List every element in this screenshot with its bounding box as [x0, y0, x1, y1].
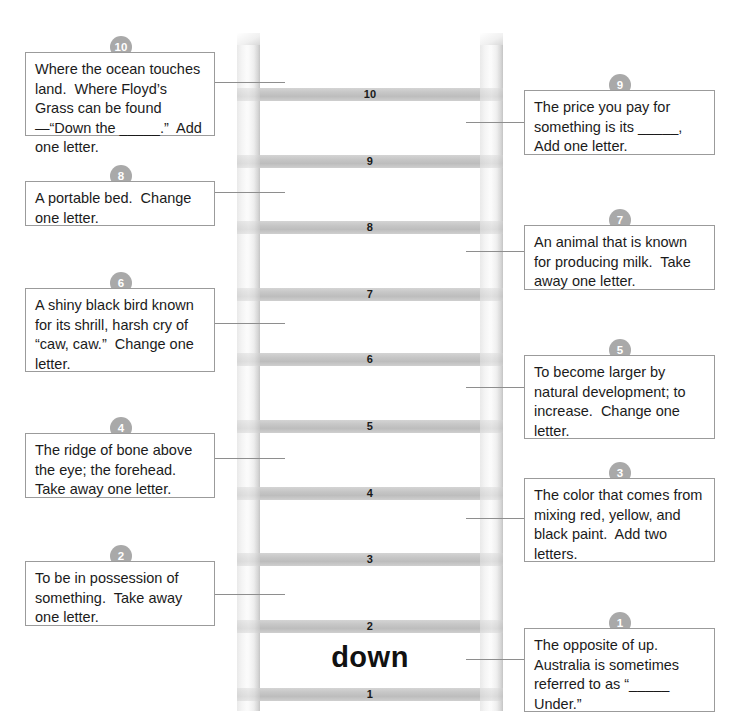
clue-text-8: A portable bed. Change one letter.	[35, 190, 195, 226]
ladder-rung-6	[237, 353, 503, 366]
clue-connector-8	[215, 192, 285, 193]
ladder-rung-7	[237, 288, 503, 301]
ladder-rung-4	[237, 487, 503, 500]
clue-text-1: The opposite of up. Australia is sometim…	[534, 637, 683, 712]
ladder-right-rail	[480, 33, 503, 711]
ladder-right-rail-top	[480, 33, 503, 45]
clue-box-4[interactable]: The ridge of bone above the eye; the for…	[25, 433, 215, 498]
ladder-rung-1	[237, 688, 503, 701]
worksheet-page: 10 9 8 7 6 5 4 3 2 1 down 10 Where the o…	[0, 0, 736, 724]
clue-text-3: The color that comes from mixing red, ye…	[534, 487, 706, 562]
clue-box-3[interactable]: The color that comes from mixing red, ye…	[524, 478, 715, 562]
clue-text-4: The ridge of bone above the eye; the for…	[35, 442, 196, 497]
clue-box-5[interactable]: To become larger by natural development;…	[524, 355, 715, 439]
clue-box-8[interactable]: A portable bed. Change one letter.	[25, 181, 215, 226]
ladder-rung-2	[237, 620, 503, 633]
clue-connector-6	[215, 323, 285, 324]
rung-number-8: 8	[237, 221, 503, 234]
clue-box-7[interactable]: An animal that is known for producing mi…	[524, 225, 715, 290]
rung-number-6: 6	[237, 353, 503, 366]
rung-number-7: 7	[237, 288, 503, 301]
rung-number-10: 10	[237, 88, 503, 101]
clue-text-6: A shiny black bird known for its shrill,…	[35, 297, 198, 372]
rung-number-1: 1	[237, 688, 503, 701]
clue-connector-4	[215, 458, 285, 459]
rung-number-4: 4	[237, 487, 503, 500]
answer-word-down: down	[250, 641, 490, 674]
ladder-left-rail-top	[237, 33, 260, 45]
ladder-rung-8	[237, 221, 503, 234]
clue-box-1[interactable]: The opposite of up. Australia is sometim…	[524, 628, 715, 712]
clue-connector-7	[466, 251, 524, 252]
clue-box-9[interactable]: The price you pay for something is its _…	[524, 90, 715, 155]
ladder-left-rail	[237, 33, 260, 711]
ladder-right-rail-overlay	[480, 33, 503, 711]
rung-number-2: 2	[237, 620, 503, 633]
clue-box-6[interactable]: A shiny black bird known for its shrill,…	[25, 288, 215, 372]
ladder-rung-5	[237, 420, 503, 433]
clue-text-5: To become larger by natural development;…	[534, 364, 690, 439]
clue-connector-10	[215, 82, 285, 83]
clue-text-7: An animal that is known for producing mi…	[534, 234, 695, 289]
clue-box-10[interactable]: Where the ocean touches land. Where Floy…	[25, 52, 215, 136]
rung-number-9: 9	[237, 155, 503, 168]
clue-connector-1	[466, 659, 524, 660]
ladder-rung-9	[237, 155, 503, 168]
clue-connector-2	[215, 594, 285, 595]
clue-text-10: Where the ocean touches land. Where Floy…	[35, 61, 206, 155]
ladder-left-rail-overlay	[237, 33, 260, 711]
clue-connector-3	[466, 518, 524, 519]
rung-number-5: 5	[237, 420, 503, 433]
rung-number-3: 3	[237, 553, 503, 566]
clue-text-9: The price you pay for something is its _…	[534, 99, 690, 154]
clue-connector-9	[466, 122, 524, 123]
clue-connector-5	[466, 387, 524, 388]
ladder-rung-10	[237, 88, 503, 101]
clue-box-2[interactable]: To be in possession of something. Take a…	[25, 561, 215, 626]
ladder-rung-3	[237, 553, 503, 566]
clue-text-2: To be in possession of something. Take a…	[35, 570, 186, 625]
